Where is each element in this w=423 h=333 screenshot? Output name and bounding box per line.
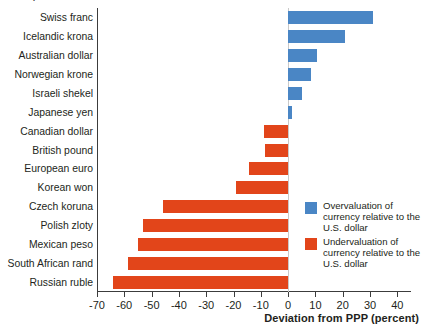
x-tick: [206, 292, 207, 297]
category-label: Australian dollar: [0, 50, 93, 61]
legend-item: Overvaluation of currency relative to th…: [305, 200, 423, 234]
x-tick: [179, 292, 180, 297]
legend-swatch-red: [305, 238, 317, 250]
bar-undervalued: [265, 144, 288, 157]
category-label: Korean won: [0, 182, 93, 193]
x-tick: [343, 292, 344, 297]
category-label: Canadian dollar: [0, 126, 93, 137]
legend: Overvaluation of currency relative to th…: [305, 200, 423, 272]
category-label: Mexican peso: [0, 239, 93, 250]
bar-overvalued: [288, 11, 373, 24]
legend-item: Undervaluation of currency relative to t…: [305, 236, 423, 270]
x-axis-title: Deviation from PPP (percent): [0, 312, 419, 324]
x-tick: [234, 292, 235, 297]
bar-overvalued: [288, 30, 345, 43]
x-tick: [288, 292, 289, 297]
bar-undervalued: [163, 200, 289, 213]
category-axis-labels: Swiss francIcelandic kronaAustralian dol…: [0, 8, 93, 290]
clipped-caption-text: 2003): [2, 0, 36, 1]
x-tick: [370, 292, 371, 297]
category-label: Russian ruble: [0, 277, 93, 288]
ppp-deviation-chart: 2003) Swiss francIcelandic kronaAustrali…: [0, 0, 423, 333]
x-tick: [261, 292, 262, 297]
y-axis-line: [97, 8, 98, 292]
category-label: Czech koruna: [0, 201, 93, 212]
bar-undervalued: [128, 257, 288, 270]
x-tick: [397, 292, 398, 297]
category-label: Norwegian krone: [0, 69, 93, 80]
x-tick: [315, 292, 316, 297]
bar-overvalued: [288, 106, 292, 119]
x-tick: [124, 292, 125, 297]
category-label: Japanese yen: [0, 107, 93, 118]
legend-label: Overvaluation of currency relative to th…: [323, 200, 423, 233]
category-label: European euro: [0, 163, 93, 174]
category-label: British pound: [0, 145, 93, 156]
category-label: Swiss franc: [0, 12, 93, 23]
x-axis-line: [97, 291, 411, 292]
bar-undervalued: [249, 162, 289, 175]
bar-overvalued: [288, 87, 302, 100]
bar-overvalued: [288, 68, 311, 81]
legend-swatch-blue: [305, 202, 317, 214]
bar-overvalued: [288, 49, 317, 62]
x-tick-label: 40: [380, 299, 414, 311]
bar-undervalued: [138, 238, 288, 251]
legend-label: Undervaluation of currency relative to t…: [323, 236, 423, 269]
x-tick: [97, 292, 98, 297]
x-tick: [152, 292, 153, 297]
bar-undervalued: [143, 219, 288, 232]
bar-undervalued: [113, 276, 288, 289]
bar-undervalued: [236, 181, 288, 194]
category-label: Icelandic krona: [0, 31, 93, 42]
category-label: South African rand: [0, 258, 93, 269]
bar-undervalued: [264, 125, 289, 138]
category-label: Israeli shekel: [0, 88, 93, 99]
category-label: Polish zloty: [0, 220, 93, 231]
